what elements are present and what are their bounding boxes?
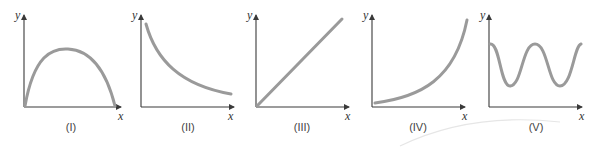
graph-label-2: (II): [168, 121, 208, 133]
graph-label-3: (III): [282, 121, 322, 133]
y-axis-label: y: [246, 8, 253, 22]
graph-4: y x: [362, 8, 468, 123]
y-axis-label: y: [479, 8, 486, 22]
graph-3: y x: [246, 8, 351, 123]
curve-exponential: [375, 20, 467, 103]
graph-5: y x: [479, 8, 585, 123]
y-axis-label: y: [362, 8, 369, 22]
graph-1: y x: [14, 8, 124, 123]
curve-decreasing: [146, 24, 231, 94]
x-axis-label: x: [344, 109, 351, 123]
y-axis-label: y: [14, 8, 21, 22]
x-axis-label: x: [578, 109, 585, 123]
curve-linear: [257, 19, 342, 106]
curve-wave: [490, 44, 581, 86]
graph-2: y x: [131, 8, 234, 123]
graph-label-5: (V): [516, 121, 556, 133]
curve-parabola: [25, 49, 115, 106]
x-axis-label: x: [227, 109, 234, 123]
x-axis-label: x: [461, 109, 468, 123]
x-axis-label: x: [117, 109, 124, 123]
graph-label-4: (IV): [398, 121, 438, 133]
y-axis-label: y: [131, 8, 138, 22]
graph-label-1: (I): [51, 121, 91, 133]
